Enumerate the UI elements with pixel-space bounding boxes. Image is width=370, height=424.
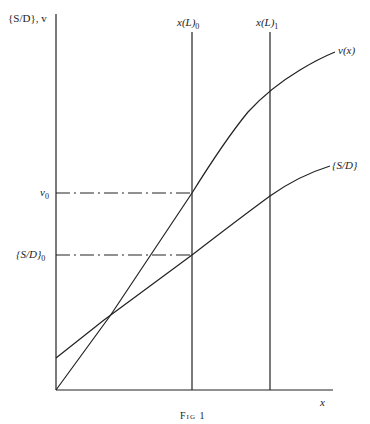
curve-v-label: v(x) bbox=[338, 44, 355, 56]
sd0-sub: 0 bbox=[41, 254, 45, 263]
xl1-label: x(L)1 bbox=[256, 16, 278, 31]
v0-sub: 0 bbox=[45, 192, 49, 201]
sd0-label: {S/D}0 bbox=[16, 248, 45, 263]
curve-sd-label: {S/D} bbox=[332, 159, 357, 171]
y-axis-label: {S/D}, v bbox=[8, 12, 47, 24]
xl0-sub: 0 bbox=[195, 22, 199, 31]
figure-canvas bbox=[0, 0, 370, 424]
curve-sd bbox=[56, 166, 330, 358]
sd0-main: {S/D} bbox=[16, 248, 41, 260]
xl1-sub: 1 bbox=[274, 22, 278, 31]
x-axis-label: x bbox=[320, 396, 325, 408]
xl0-main: x(L) bbox=[177, 16, 195, 28]
curve-v bbox=[56, 52, 335, 390]
v0-label: v0 bbox=[40, 186, 49, 201]
figure-caption: Fig 1 bbox=[180, 410, 205, 421]
xl1-main: x(L) bbox=[256, 16, 274, 28]
xl0-label: x(L)0 bbox=[177, 16, 199, 31]
